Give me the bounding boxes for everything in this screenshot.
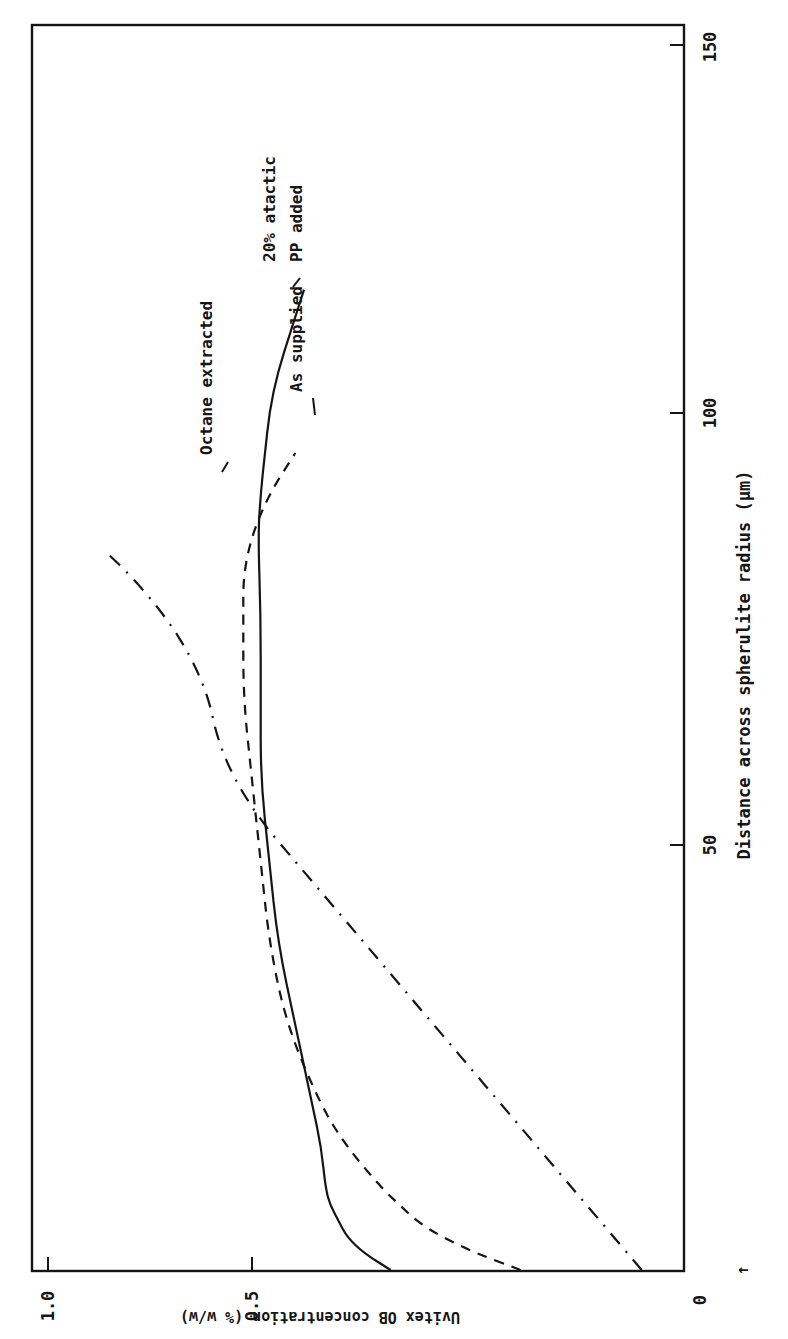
x-tick-label-100: 100 [700, 398, 720, 429]
label-atactic-line2: PP added [287, 185, 306, 262]
series-atactic-pp-solid-line [259, 290, 391, 1270]
leader-octane [222, 462, 228, 472]
label-atactic-line1: 20% atactic [260, 156, 279, 262]
x-tick-label-150: 150 [700, 32, 720, 63]
x-axis-title: Distance across spherulite radius (μm) [734, 471, 754, 860]
leader-atactic [293, 278, 300, 287]
series-octane-extracted-dashdot-line [105, 551, 642, 1270]
y-tick-label-0: 0 [690, 1295, 710, 1305]
leader-as-supplied [313, 398, 315, 415]
x-tick-label-50: 50 [700, 835, 720, 855]
series-as-supplied-dashed-line [243, 453, 520, 1270]
chart: 20% atactic PP added As supplied Octane … [0, 0, 788, 1339]
label-octane-extracted: Octane extracted [197, 301, 216, 455]
y-tick-label-1.0: 1.0 [38, 1291, 58, 1322]
origin-arrow-icon: ↑ [732, 1265, 752, 1275]
label-as-supplied: As supplied [287, 286, 306, 392]
y-axis-title: Uvitex OB concentration (% w/w) [180, 1308, 460, 1326]
plot-frame [32, 25, 684, 1271]
